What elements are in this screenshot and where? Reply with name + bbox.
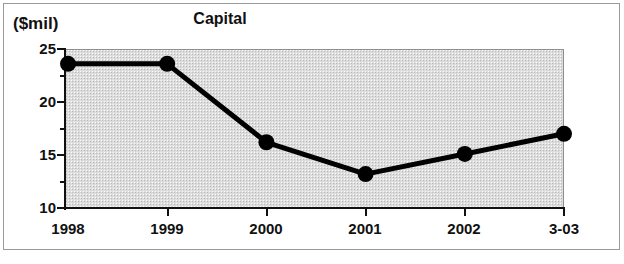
x-tick-label-1998: 1998 — [51, 220, 84, 237]
y-tick-10 — [57, 207, 66, 209]
y-tick-minor-22p5 — [60, 75, 66, 77]
y-tick-minor-17p5 — [60, 128, 66, 130]
y-axis-unit-label: ($mil) — [13, 14, 58, 34]
x-tick-2001 — [365, 208, 367, 216]
y-tick-label-10: 10 — [39, 199, 56, 216]
y-tick-label-25: 25 — [39, 40, 56, 57]
x-axis-line — [64, 207, 565, 209]
page-title: Capital — [150, 10, 290, 28]
plot-area — [65, 49, 564, 208]
x-tick-2002 — [464, 208, 466, 216]
x-tick-label-2001: 2001 — [348, 220, 381, 237]
x-tick-label-1999: 1999 — [150, 220, 183, 237]
y-tick-15 — [57, 154, 66, 156]
x-tick-3-03 — [563, 208, 565, 216]
y-tick-label-15: 15 — [39, 146, 56, 163]
x-tick-2000 — [266, 208, 268, 216]
chart-figure: ($mil) Capital 25 20 15 10 1998 1999 200… — [0, 0, 624, 264]
x-tick-label-2000: 2000 — [249, 220, 282, 237]
y-tick-label-20: 20 — [39, 93, 56, 110]
x-tick-1999 — [167, 208, 169, 216]
y-tick-minor-12p5 — [60, 181, 66, 183]
x-tick-label-2002: 2002 — [447, 220, 480, 237]
y-tick-25 — [57, 48, 66, 50]
x-tick-label-3-03: 3-03 — [549, 220, 579, 237]
y-tick-20 — [57, 101, 66, 103]
